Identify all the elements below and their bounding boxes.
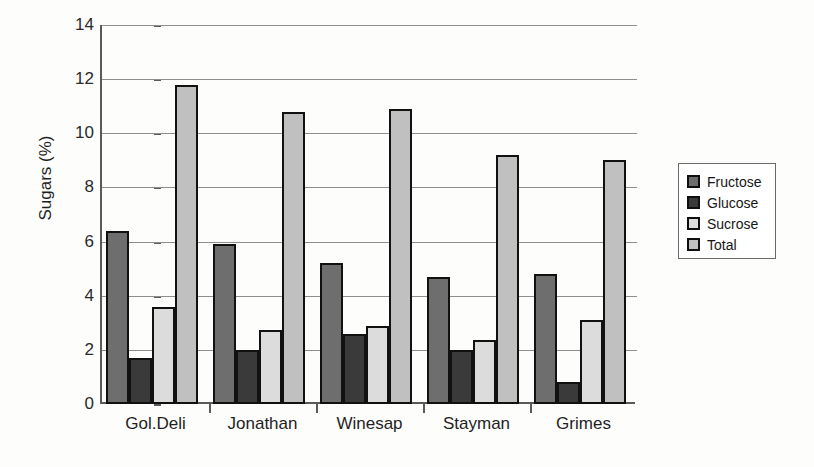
bar-total-goldeli — [175, 85, 198, 404]
y-tick-label: 8 — [60, 177, 94, 197]
bar-group — [320, 25, 412, 404]
bar-sucrose-winesap — [366, 326, 389, 405]
legend-swatch-icon — [687, 196, 700, 209]
bar-total-grimes — [603, 160, 626, 404]
x-tick-mark — [530, 404, 532, 413]
legend-item-label: Glucose — [707, 195, 758, 211]
x-category-label-winesap: Winesap — [316, 414, 423, 434]
x-category-label-stayman: Stayman — [423, 414, 530, 434]
bar-total-winesap — [389, 109, 412, 404]
bar-group — [213, 25, 305, 404]
y-tick-label: 6 — [60, 232, 94, 252]
bar-fructose-grimes — [534, 274, 557, 404]
legend-item-label: Fructose — [707, 174, 761, 190]
bar-sucrose-stayman — [473, 340, 496, 404]
bar-fructose-stayman — [427, 277, 450, 404]
bar-group — [427, 25, 519, 404]
x-tick-mark — [423, 404, 425, 413]
bar-group — [106, 25, 198, 404]
bar-sucrose-goldeli — [152, 307, 175, 404]
bar-glucose-winesap — [343, 334, 366, 404]
y-tick-mark — [154, 404, 161, 406]
x-category-label-jonathan: Jonathan — [209, 414, 316, 434]
bar-sucrose-grimes — [580, 320, 603, 404]
y-tick-label: 14 — [60, 15, 94, 35]
y-tick-label: 4 — [60, 286, 94, 306]
bar-total-jonathan — [282, 112, 305, 404]
bar-fructose-jonathan — [213, 244, 236, 404]
bar-sucrose-jonathan — [259, 330, 282, 404]
bar-group — [534, 25, 626, 404]
legend-item-fructose: Fructose — [687, 171, 775, 192]
x-category-label-goldeli: Gol.Deli — [102, 414, 209, 434]
bar-glucose-stayman — [450, 350, 473, 404]
bar-chart-figure: Sugars (%) 02468101214 Gol.DeliJonathanW… — [0, 0, 814, 467]
legend-swatch-icon — [687, 238, 700, 251]
legend-swatch-icon — [687, 175, 700, 188]
legend-item-label: Sucrose — [707, 216, 758, 232]
bar-fructose-winesap — [320, 263, 343, 404]
legend: FructoseGlucoseSucroseTotal — [678, 163, 776, 259]
bar-glucose-jonathan — [236, 350, 259, 404]
y-axis-tick-labels: 02468101214 — [54, 25, 94, 404]
y-tick-label: 10 — [60, 123, 94, 143]
legend-swatch-icon — [687, 217, 700, 230]
x-tick-mark — [316, 404, 318, 413]
y-tick-label: 2 — [60, 340, 94, 360]
bar-glucose-goldeli — [129, 358, 152, 404]
bars-container — [102, 25, 635, 404]
legend-item-total: Total — [687, 234, 775, 255]
legend-item-glucose: Glucose — [687, 192, 775, 213]
y-tick-label: 0 — [60, 394, 94, 414]
legend-item-sucrose: Sucrose — [687, 213, 775, 234]
bar-glucose-grimes — [557, 382, 580, 404]
legend-item-label: Total — [707, 237, 737, 253]
x-category-label-grimes: Grimes — [530, 414, 637, 434]
bar-total-stayman — [496, 155, 519, 404]
x-tick-mark — [209, 404, 211, 413]
y-axis-title: Sugars (%) — [36, 108, 56, 248]
y-tick-label: 12 — [60, 69, 94, 89]
bar-fructose-goldeli — [106, 231, 129, 404]
